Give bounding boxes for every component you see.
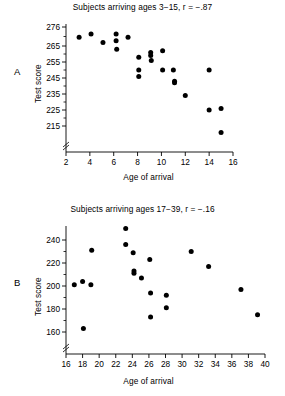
x-tick-label: 8 [135, 157, 140, 167]
data-point [160, 48, 165, 53]
panel-b-plot-area: 1601802002202401618202224262830323436384… [0, 196, 285, 396]
x-tick-label: 40 [260, 359, 270, 369]
data-point [81, 326, 86, 331]
data-point [114, 47, 119, 52]
data-point [139, 275, 144, 280]
data-point [148, 53, 153, 58]
data-point [131, 250, 136, 255]
x-tick-label: 6 [111, 157, 116, 167]
data-point [207, 68, 212, 73]
y-tick-label: 255 [46, 57, 60, 67]
data-point [238, 287, 243, 292]
data-point [131, 271, 136, 276]
data-point [147, 257, 152, 262]
data-point [100, 40, 105, 45]
data-point [136, 55, 141, 60]
y-tick-label: 235 [46, 89, 60, 99]
panel-a-plot-area: 215225235245255265276246810121416 [0, 0, 285, 196]
y-tick-label: 240 [46, 235, 60, 245]
y-tick-label: 215 [46, 121, 60, 131]
x-tick-label: 38 [244, 359, 254, 369]
data-point [89, 31, 94, 36]
x-tick-label: 22 [111, 359, 121, 369]
x-tick-label: 28 [161, 359, 171, 369]
data-point [80, 279, 85, 284]
x-tick-label: 24 [128, 359, 138, 369]
panel-b: B Subjects arriving ages 17−39, r = −.16… [0, 196, 285, 396]
y-tick-label: 200 [46, 281, 60, 291]
data-point [123, 226, 128, 231]
data-point [114, 38, 119, 43]
data-point [172, 80, 177, 85]
y-tick-label: 265 [46, 41, 60, 51]
data-point [136, 68, 141, 73]
x-tick-label: 14 [205, 157, 215, 167]
data-point [89, 248, 94, 253]
data-point [164, 293, 169, 298]
x-tick-label: 30 [177, 359, 187, 369]
data-point [183, 93, 188, 98]
data-point [126, 35, 131, 40]
y-tick-label: 245 [46, 73, 60, 83]
data-point [164, 305, 169, 310]
panel-a: A Subjects arriving ages 3−15, r = −.87 … [0, 0, 285, 196]
data-point [72, 282, 77, 287]
data-point [77, 35, 82, 40]
data-point [219, 130, 224, 135]
x-tick-label: 18 [78, 359, 88, 369]
data-point [114, 31, 119, 36]
y-tick-label: 220 [46, 258, 60, 268]
x-tick-label: 36 [227, 359, 237, 369]
data-point [148, 315, 153, 320]
x-tick-label: 16 [228, 157, 238, 167]
y-tick-label: 180 [46, 304, 60, 314]
data-point [136, 74, 141, 79]
x-tick-label: 20 [95, 359, 105, 369]
data-point [206, 264, 211, 269]
x-tick-label: 34 [211, 359, 221, 369]
data-point [189, 249, 194, 254]
x-tick-label: 4 [88, 157, 93, 167]
data-point [171, 68, 176, 73]
data-point [148, 290, 153, 295]
y-tick-label: 160 [46, 327, 60, 337]
data-point [255, 312, 260, 317]
x-tick-label: 32 [194, 359, 204, 369]
scatter-plot-figure: A Subjects arriving ages 3−15, r = −.87 … [0, 0, 285, 396]
data-point [207, 108, 212, 113]
y-tick-label: 225 [46, 105, 60, 115]
data-point [160, 68, 165, 73]
data-point [123, 242, 128, 247]
x-tick-label: 10 [157, 157, 167, 167]
data-point [219, 106, 224, 111]
data-point [88, 282, 93, 287]
x-tick-label: 2 [64, 157, 69, 167]
data-point [149, 58, 154, 63]
x-tick-label: 26 [144, 359, 154, 369]
x-tick-label: 16 [61, 359, 71, 369]
y-tick-label: 276 [46, 22, 60, 32]
x-tick-label: 12 [181, 157, 191, 167]
